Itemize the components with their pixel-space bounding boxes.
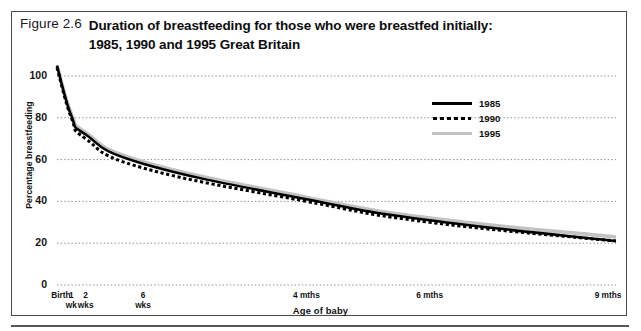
bottom-rule xyxy=(11,325,629,327)
legend-swatch-1995-icon xyxy=(432,128,472,139)
legend-item-1990: 1990 xyxy=(432,111,500,126)
figure-title: Duration of breastfeeding for those who … xyxy=(89,16,589,54)
chart-legend: 1985 1990 1995 xyxy=(432,96,500,141)
legend-label-1995: 1995 xyxy=(479,128,500,139)
figure-title-line-2: 1985, 1990 and 1995 Great Britain xyxy=(89,35,589,54)
figure-title-block: Figure 2.6Duration of breastfeeding for … xyxy=(20,16,600,54)
figure-frame xyxy=(11,11,627,316)
figure-title-line-1: Duration of breastfeeding for those who … xyxy=(89,16,589,35)
legend-label-1990: 1990 xyxy=(479,113,500,124)
figure-number: Figure 2.6 xyxy=(20,16,82,31)
legend-label-1985: 1985 xyxy=(479,98,500,109)
legend-swatch-1985-icon xyxy=(432,98,472,109)
legend-item-1985: 1985 xyxy=(432,96,500,111)
legend-item-1995: 1995 xyxy=(432,126,500,141)
legend-swatch-1990-icon xyxy=(432,113,472,124)
